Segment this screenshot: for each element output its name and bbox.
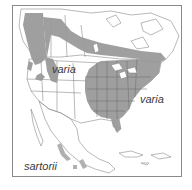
label-varia-west: varia [52,64,76,75]
label-sartorii: sartorii [24,161,57,172]
range-map [13,6,182,177]
map-frame [12,5,182,177]
label-varia-east: varia [140,94,164,105]
